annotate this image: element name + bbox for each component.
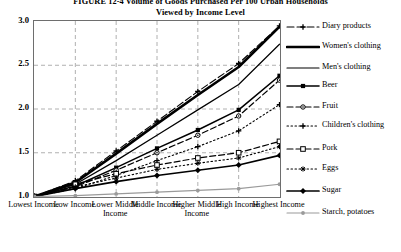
plus-dashed-icon [286,22,320,32]
legend-label: Sugar [322,185,400,194]
solid-diamond-marker-icon [286,186,320,196]
solid-square-marker-icon [286,81,320,91]
chart-canvas [34,21,280,197]
legend-label: Children's clothing [322,120,400,129]
y-axis-tick-label: 1.0 [0,191,29,200]
legend-label: Men's clothing [322,62,400,71]
legend-label: Diary products [322,21,400,30]
legend-label: Eggs [322,163,400,172]
y-axis-tick-label: 2.0 [0,103,29,112]
y-axis-tick-label: 2.5 [0,59,29,68]
legend-label: Beer [322,80,400,89]
figure-title-line1: FIGURE 12-4 Volume of Goods Purchased Pe… [0,0,401,6]
figure-title: FIGURE 12-4 Volume of Goods Purchased Pe… [0,0,401,17]
legend-label: Fruit [322,101,400,110]
plot-area [33,20,281,198]
series-fruit [34,78,280,197]
legend-label: Women's clothing [322,41,400,50]
dashed-circle-marker-icon [286,102,320,112]
grey-solid-dot-icon [286,208,320,218]
y-axis-tick-label: 3.0 [0,16,29,25]
dashed-open-square-icon [286,144,320,154]
figure-title-line2: Viewed by Income Level [0,8,401,17]
legend-label: Pork [322,143,400,152]
chart-figure: FIGURE 12-4 Volume of Goods Purchased Pe… [0,0,401,252]
dotted-star-marker-icon [286,164,320,174]
y-axis-tick-label: 1.5 [0,147,29,156]
legend-label: Starch, potatoes [322,207,400,216]
thin-solid-line-icon [286,63,320,73]
dotted-plus-marker-icon [286,121,320,131]
thick-solid-line-icon [286,42,320,52]
